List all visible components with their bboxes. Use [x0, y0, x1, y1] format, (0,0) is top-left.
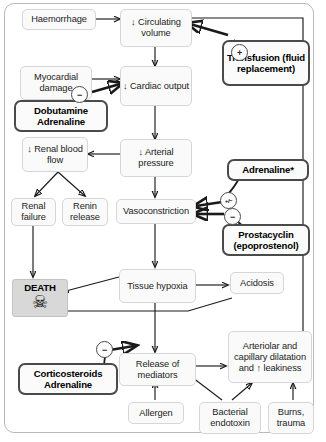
node-arterial-pressure-label: ↓ Arterial pressure [121, 147, 191, 169]
drug-adrenaline-star[interactable]: Adrenaline* [227, 159, 309, 181]
node-allergen-label: Allergen [139, 408, 172, 419]
drug-prostacyclin-label: Prostacyclin (epoprostenol) [224, 229, 308, 252]
node-burns-trauma-label: Burns, trauma [269, 407, 313, 429]
node-death[interactable]: DEATH ☠ [12, 279, 68, 317]
node-renal-blood-flow-label: ↓ Renal blood flow [23, 144, 87, 166]
sign-prostacyclin-glyph: − [230, 212, 235, 222]
node-arteriolar-dilatation-label: Arteriolar and capillary dilatation and … [229, 341, 311, 374]
node-acidosis-label: Acidosis [240, 278, 274, 289]
node-haemorrhage[interactable]: Haemorrhage [22, 9, 96, 30]
drug-corticosteroids-adrenaline[interactable]: Corticosteroids Adrenaline [18, 363, 118, 395]
sign-corticosteroid-negative: − [96, 341, 113, 358]
node-burns-trauma[interactable]: Burns, trauma [268, 402, 314, 434]
sign-prostacyclin-negative: − [224, 208, 241, 225]
sign-adrenaline-glyph: +/− [225, 197, 232, 204]
node-release-of-mediators-label: Release of mediators [120, 359, 195, 381]
node-renal-blood-flow[interactable]: ↓ Renal blood flow [22, 137, 88, 172]
drug-prostacyclin[interactable]: Prostacyclin (epoprostenol) [222, 224, 310, 256]
sign-transfusion-positive: + [231, 44, 248, 61]
drug-adrenaline-star-label: Adrenaline* [242, 164, 294, 176]
sign-dobutamine-negative: − [71, 86, 88, 103]
sign-dobutamine-glyph: − [77, 90, 82, 100]
node-renal-failure-label: Renal failure [12, 201, 55, 223]
node-circulating-volume-label: ↓ Circulating volume [121, 17, 191, 39]
node-tissue-hypoxia-label: Tissue hypoxia [127, 281, 187, 292]
sign-adrenaline-mixed: +/− [220, 192, 237, 209]
drug-dobutamine-adrenaline[interactable]: Dobutamine Adrenaline [14, 100, 108, 132]
node-arterial-pressure[interactable]: ↓ Arterial pressure [120, 139, 192, 177]
node-arteriolar-dilatation[interactable]: Arteriolar and capillary dilatation and … [228, 331, 312, 383]
node-release-of-mediators[interactable]: Release of mediators [119, 353, 196, 386]
node-haemorrhage-label: Haemorrhage [31, 14, 87, 25]
node-vasoconstriction[interactable]: Vasoconstriction [116, 199, 196, 224]
skull-and-crossbones-icon: ☠ [32, 293, 48, 311]
node-bacterial-endotoxin[interactable]: Bacterial endotoxin [199, 402, 261, 434]
node-renal-failure[interactable]: Renal failure [11, 198, 56, 226]
node-vasoconstriction-label: Vasoconstriction [123, 206, 189, 217]
node-cardiac-output[interactable]: ↓ Cardiac output [120, 66, 192, 106]
sign-corticosteroid-glyph: − [102, 345, 107, 355]
node-allergen[interactable]: Allergen [128, 402, 184, 424]
node-cardiac-output-label: ↓ Cardiac output [123, 81, 189, 92]
node-renin-release[interactable]: Renin release [62, 198, 108, 226]
node-renin-release-label: Renin release [63, 201, 107, 223]
drug-dobutamine-adrenaline-label: Dobutamine Adrenaline [16, 105, 106, 128]
drug-corticosteroids-adrenaline-label: Corticosteroids Adrenaline [20, 368, 116, 391]
sign-transfusion-glyph: + [237, 48, 242, 58]
diagram-canvas: Haemorrhage ↓ Circulating volume Myocard… [0, 0, 326, 442]
node-bacterial-endotoxin-label: Bacterial endotoxin [200, 407, 260, 429]
node-tissue-hypoxia[interactable]: Tissue hypoxia [119, 269, 196, 303]
node-acidosis[interactable]: Acidosis [230, 272, 284, 294]
node-circulating-volume[interactable]: ↓ Circulating volume [120, 9, 192, 47]
